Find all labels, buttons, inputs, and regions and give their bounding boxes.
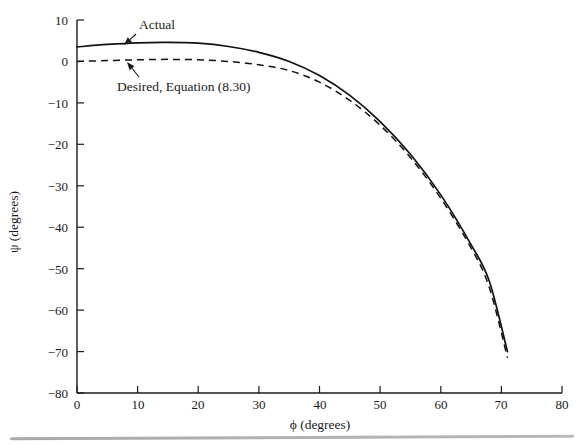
y-tick-label-minus-40: −40 [32, 221, 68, 234]
actual-annotation-arrow [130, 34, 136, 40]
y-tick-label-minus-10: −10 [32, 97, 68, 110]
y-tick-label-minus-50: −50 [32, 263, 68, 276]
y-tick-label-0: 0 [38, 55, 68, 68]
x-axis-ticks [77, 386, 562, 393]
y-tick-label-minus-70: −70 [32, 346, 68, 359]
x-tick-label-30: 30 [253, 398, 266, 411]
x-tick-label-40: 40 [314, 398, 327, 411]
desired-annotation-arrow [132, 68, 139, 77]
plot-canvas [0, 0, 584, 445]
x-tick-label-10: 10 [132, 398, 145, 411]
actual-annotation-label: Actual [139, 18, 175, 32]
annotation-arrows [124, 34, 139, 77]
y-tick-label-minus-80: −80 [32, 387, 68, 400]
desired-annotation-label: Desired, Equation (8.30) [117, 80, 250, 94]
figure-container: 10 0 −10 −20 −30 −40 −50 −60 −70 −80 0 1… [0, 0, 584, 445]
y-axis-title: ψ (degrees) [7, 191, 21, 253]
x-tick-label-50: 50 [374, 398, 387, 411]
x-tick-label-0: 0 [74, 398, 81, 411]
x-tick-label-70: 70 [495, 398, 508, 411]
x-tick-label-20: 20 [192, 398, 205, 411]
y-tick-label-10: 10 [38, 14, 68, 27]
y-tick-label-minus-20: −20 [32, 138, 68, 151]
x-axis-title: ϕ (degrees) [290, 418, 351, 432]
x-tick-label-60: 60 [435, 398, 448, 411]
x-tick-label-80: 80 [556, 398, 569, 411]
y-tick-label-minus-30: −30 [32, 180, 68, 193]
series-line-desired [77, 59, 507, 357]
y-axis-ticks [77, 20, 84, 393]
y-tick-label-minus-60: −60 [32, 304, 68, 317]
